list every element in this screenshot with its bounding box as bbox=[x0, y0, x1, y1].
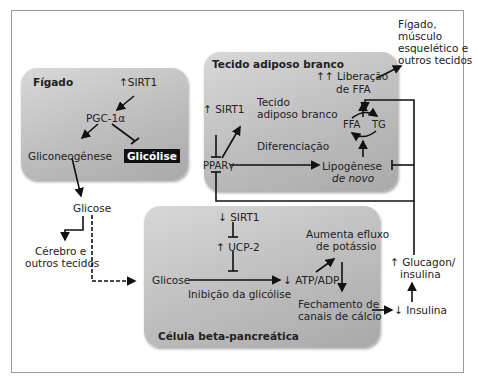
wat-label-2: adiposo branco bbox=[257, 108, 338, 120]
efflux-1: Aumenta efluxo bbox=[306, 228, 389, 240]
ppar-gamma: PPARγ bbox=[203, 160, 234, 172]
pgc1a: PGC-1α bbox=[86, 112, 125, 124]
wat-label-1: Tecido bbox=[257, 96, 290, 108]
gluconeogenesis: Gliconeogênese bbox=[28, 150, 112, 162]
lipogenesis-1: Lipogênese bbox=[322, 160, 382, 172]
insulin: ↓ Insulina bbox=[394, 304, 447, 316]
targets-3: esquelético e bbox=[398, 42, 468, 54]
efflux-2: de potássio bbox=[316, 240, 376, 252]
targets-1: Fígado, bbox=[398, 18, 436, 30]
brain-label-2: outros tecidos bbox=[25, 257, 99, 269]
adipose-sirt1: ↑ SIRT1 bbox=[203, 103, 245, 115]
calcium-1: Fechamento de bbox=[298, 298, 379, 310]
calcium-2: canais de cálcio bbox=[298, 310, 382, 322]
adipose-title: Tecido adiposo branco bbox=[212, 58, 344, 70]
atp-adp: ↓ ATP/ADP bbox=[283, 274, 339, 286]
brain-label-1: Cérebro e bbox=[35, 245, 86, 257]
glucose-label: Glicose bbox=[73, 202, 111, 214]
glucagon-1: ↑ Glucagon/ bbox=[390, 256, 455, 268]
liver-sirt1: ↑SIRT1 bbox=[119, 76, 157, 88]
targets-4: outros tecidos bbox=[398, 54, 472, 66]
ffa: FFA bbox=[343, 119, 360, 131]
glycolysis-inhibition: Inibição da glicólise bbox=[188, 288, 291, 300]
beta-title: Célula beta-pancreática bbox=[158, 330, 299, 342]
differentiation: Diferenciação bbox=[257, 140, 329, 152]
targets-2: músculo bbox=[398, 30, 442, 42]
ffa-release-2: de FFA bbox=[336, 83, 371, 95]
beta-sirt1: ↓ SIRT1 bbox=[218, 211, 260, 223]
glucagon-2: insulina bbox=[400, 268, 441, 280]
ucp2: ↑ UCP-2 bbox=[216, 241, 260, 253]
beta-glucose: Glicose bbox=[152, 274, 190, 286]
glycolysis-highlight: Glicólise bbox=[124, 149, 180, 163]
liver-title: Fígado bbox=[33, 76, 73, 88]
ffa-release-1: ↑↑ Liberação bbox=[316, 70, 388, 82]
tg: TG bbox=[372, 119, 386, 131]
lipogenesis-2: de novo bbox=[332, 172, 374, 184]
